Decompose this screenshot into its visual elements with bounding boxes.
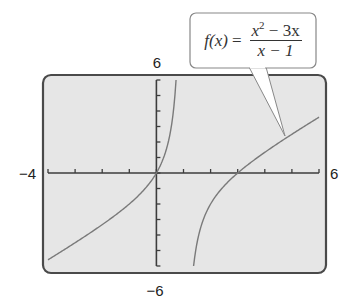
plot-window <box>43 75 326 273</box>
ymin-label: −6 <box>146 282 163 299</box>
formula-lhs: f(x) <box>204 31 228 51</box>
function-formula: f(x) = x2 − 3x x − 1 <box>190 13 316 68</box>
formula-numerator: x2 − 3x <box>250 21 302 41</box>
formula-denominator: x − 1 <box>256 41 296 60</box>
formula-fraction: x2 − 3x x − 1 <box>250 21 302 60</box>
xmin-label: −4 <box>19 165 36 182</box>
formula-equals: = <box>232 31 242 51</box>
ymax-label: 6 <box>153 54 161 71</box>
xmax-label: 6 <box>330 165 338 182</box>
